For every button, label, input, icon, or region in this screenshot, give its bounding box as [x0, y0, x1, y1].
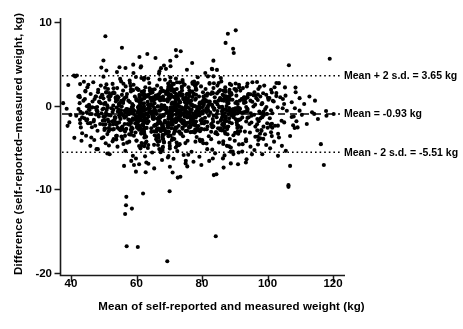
- reference-line-label-mean-difference: Mean = -0.93 kg: [344, 107, 422, 119]
- y-tick-label-neg10: -10: [18, 183, 52, 195]
- x-tick-label-120: 120: [323, 277, 342, 289]
- y-tick-label-neg20: -20: [18, 267, 52, 279]
- reference-line-label-upper-limit-of-agreement: Mean + 2 s.d. = 3.65 kg: [344, 69, 457, 81]
- x-tick-label-40: 40: [65, 277, 78, 289]
- reference-line-label-lower-limit-of-agreement: Mean - 2 s.d. = -5.51 kg: [344, 146, 458, 158]
- bland-altman-scatter-figure: Difference (self-reported–measured weigh…: [0, 0, 463, 329]
- y-axis-title-container: Difference (self-reported–measured weigh…: [12, 17, 28, 275]
- y-axis-title: Difference (self-reported–measured weigh…: [12, 17, 24, 275]
- x-tick-label-80: 80: [196, 277, 209, 289]
- y-tick-label-0: 0: [18, 100, 52, 112]
- y-tick-label-10: 10: [18, 16, 52, 28]
- x-tick-label-60: 60: [130, 277, 143, 289]
- x-tick-label-100: 100: [258, 277, 277, 289]
- x-axis-title: Mean of self-reported and measured weigh…: [0, 300, 463, 312]
